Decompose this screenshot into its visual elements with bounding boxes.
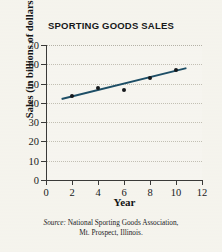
y-tick-label: 50: [29, 78, 40, 89]
source-line-1: National Sporting Goods Association,: [68, 218, 179, 227]
x-tick-mark: [72, 180, 73, 185]
y-tick-label: 60: [29, 59, 40, 70]
plot-area: [46, 45, 202, 180]
data-point: [96, 86, 100, 90]
data-point: [70, 94, 74, 98]
x-axis-title: Year: [46, 196, 203, 208]
y-tick-mark: [41, 141, 46, 142]
source-line-2: Mt. Prospect, Illinois.: [79, 228, 142, 237]
data-point: [174, 68, 178, 72]
x-tick-mark: [46, 180, 47, 185]
data-point: [148, 76, 152, 80]
y-tick-mark: [41, 122, 46, 123]
chart-figure: SPORTING GOODS SALES Sales (in billions …: [0, 0, 222, 252]
y-tick-mark: [41, 64, 46, 65]
trend-line: [46, 45, 202, 180]
y-tick-label: 70: [29, 40, 40, 51]
x-tick-mark: [202, 180, 203, 185]
y-tick-label: 0: [34, 175, 39, 186]
source-label: Source:: [44, 218, 66, 227]
x-tick-mark: [124, 180, 125, 185]
y-axis: [46, 45, 47, 181]
y-tick-label: 40: [29, 97, 40, 108]
y-tick-mark: [41, 84, 46, 85]
y-tick-label: 20: [29, 136, 40, 147]
y-tick-label: 30: [29, 117, 40, 128]
x-tick-mark: [176, 180, 177, 185]
y-tick-mark: [41, 161, 46, 162]
regression-line: [62, 68, 187, 99]
source-note: Source: National Sporting Goods Associat…: [8, 218, 214, 238]
y-tick-mark: [41, 103, 46, 104]
data-point: [122, 88, 126, 92]
x-tick-mark: [150, 180, 151, 185]
y-tick-label: 10: [29, 155, 40, 166]
y-tick-mark: [41, 45, 46, 46]
x-tick-mark: [98, 180, 99, 185]
